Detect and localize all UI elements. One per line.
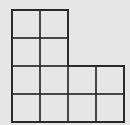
grid-cell [40,38,68,66]
grid-cell [96,66,124,94]
grid-cell [12,94,40,122]
grid-cell [96,94,124,122]
grid-cell [68,66,96,94]
grid-cell [12,38,40,66]
grid-cell [40,10,68,38]
grid-cell [12,66,40,94]
grid-cell [12,10,40,38]
l-shaped-grid [0,0,130,125]
grid-cell [40,66,68,94]
grid-cell [40,94,68,122]
grid-cell [68,94,96,122]
